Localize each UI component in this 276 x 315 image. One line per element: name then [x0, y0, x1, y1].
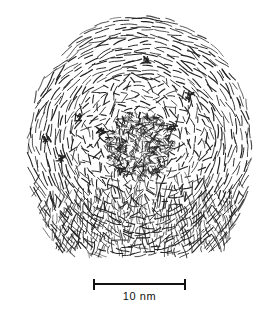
lattice-fringe-micrograph-drawing: [0, 0, 276, 315]
figure-root: 10 nm: [0, 0, 276, 315]
figure-background: [0, 0, 276, 315]
